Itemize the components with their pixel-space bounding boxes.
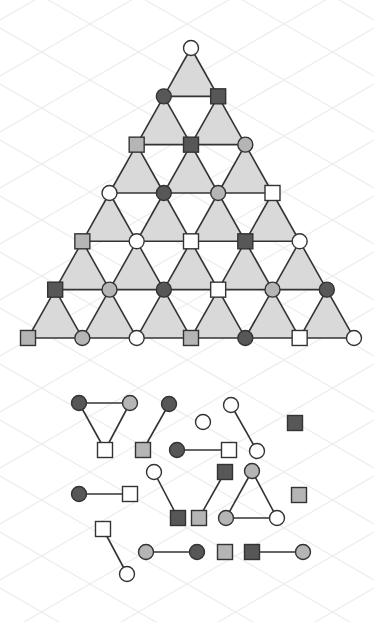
board-node-circle-dark[interactable] <box>156 282 171 297</box>
board-node-circle-light[interactable] <box>102 282 117 297</box>
board-node-square-white[interactable] <box>265 185 280 200</box>
piece-node-circle-light[interactable] <box>219 511 234 526</box>
board-node-circle-white[interactable] <box>292 234 307 249</box>
board-node-circle-white[interactable] <box>184 41 199 56</box>
lattice-line <box>0 0 374 20</box>
piece-single[interactable] <box>288 416 303 431</box>
board-node-square-dark[interactable] <box>48 282 63 297</box>
piece-node-circle-dark[interactable] <box>190 545 205 560</box>
piece-node-square-dark[interactable] <box>218 465 233 480</box>
piece-triangle[interactable] <box>72 396 138 458</box>
board-node-circle-light[interactable] <box>238 137 253 152</box>
board-node-circle-dark[interactable] <box>156 185 171 200</box>
piece-node-square-light[interactable] <box>292 488 307 503</box>
board-node-square-light[interactable] <box>75 234 90 249</box>
triangular-board <box>21 41 362 346</box>
piece-node-circle-dark[interactable] <box>72 487 87 502</box>
piece-node-circle-light[interactable] <box>245 464 260 479</box>
board-node-square-dark[interactable] <box>184 137 199 152</box>
board-node-circle-white[interactable] <box>102 185 117 200</box>
piece-node-circle-white[interactable] <box>270 511 285 526</box>
piece-node-circle-white[interactable] <box>250 444 265 459</box>
diagram-canvas <box>0 0 374 622</box>
board-node-square-white[interactable] <box>292 330 307 345</box>
piece-node-square-light[interactable] <box>192 511 207 526</box>
lattice-line <box>0 588 374 622</box>
diagram-svg <box>0 0 374 622</box>
loose-pieces <box>72 396 311 582</box>
board-node-circle-light[interactable] <box>265 282 280 297</box>
piece-pair[interactable] <box>72 487 138 502</box>
piece-node-circle-white[interactable] <box>224 398 239 413</box>
piece-node-square-white[interactable] <box>96 522 111 537</box>
piece-node-circle-light[interactable] <box>139 545 154 560</box>
piece-node-square-dark[interactable] <box>245 545 260 560</box>
piece-node-circle-white[interactable] <box>147 465 162 480</box>
board-node-square-light[interactable] <box>21 330 36 345</box>
piece-node-circle-light[interactable] <box>296 545 311 560</box>
board-node-square-dark[interactable] <box>211 89 226 104</box>
piece-single[interactable] <box>218 545 233 560</box>
board-node-circle-dark[interactable] <box>319 282 334 297</box>
board-node-square-dark[interactable] <box>238 234 253 249</box>
piece-node-circle-white[interactable] <box>196 415 211 430</box>
board-node-circle-dark[interactable] <box>156 89 171 104</box>
board-node-circle-light[interactable] <box>75 330 90 345</box>
lattice-line <box>0 532 374 622</box>
board-node-square-light[interactable] <box>184 330 199 345</box>
board-node-square-white[interactable] <box>211 282 226 297</box>
piece-node-circle-dark[interactable] <box>162 397 177 412</box>
piece-pair[interactable] <box>139 545 205 560</box>
piece-node-square-white[interactable] <box>98 443 113 458</box>
board-node-square-light[interactable] <box>129 137 144 152</box>
lattice-line <box>0 476 374 622</box>
piece-single[interactable] <box>196 415 211 430</box>
piece-node-circle-light[interactable] <box>123 396 138 411</box>
board-node-circle-white[interactable] <box>129 330 144 345</box>
piece-node-square-white[interactable] <box>123 487 138 502</box>
piece-node-circle-dark[interactable] <box>170 443 185 458</box>
board-node-circle-white[interactable] <box>129 234 144 249</box>
piece-pair[interactable] <box>96 522 135 582</box>
piece-node-square-dark[interactable] <box>288 416 303 431</box>
lattice-line <box>0 532 374 622</box>
lattice-line <box>0 476 374 622</box>
piece-node-square-white[interactable] <box>222 443 237 458</box>
piece-pair[interactable] <box>170 443 237 458</box>
piece-pair[interactable] <box>245 545 311 560</box>
piece-node-square-dark[interactable] <box>171 511 186 526</box>
lattice-line <box>0 0 374 20</box>
board-node-circle-white[interactable] <box>346 330 361 345</box>
board-node-circle-light[interactable] <box>211 185 226 200</box>
board-node-circle-dark[interactable] <box>238 330 253 345</box>
piece-node-square-light[interactable] <box>136 443 151 458</box>
board-node-square-white[interactable] <box>184 234 199 249</box>
piece-node-circle-white[interactable] <box>120 567 135 582</box>
lattice-line <box>0 588 374 622</box>
piece-node-circle-dark[interactable] <box>72 396 87 411</box>
piece-single[interactable] <box>292 488 307 503</box>
piece-node-square-light[interactable] <box>218 545 233 560</box>
